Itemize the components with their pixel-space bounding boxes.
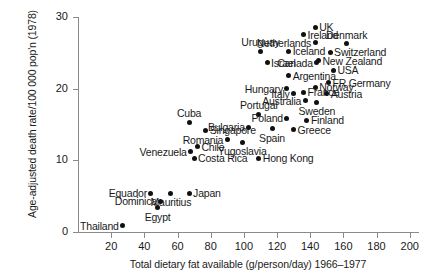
x-tick-mark (410, 233, 411, 238)
y-axis-line (78, 17, 79, 233)
x-tick-label: 20 (96, 240, 126, 252)
data-point (195, 144, 200, 149)
data-point (192, 156, 197, 161)
x-tick-mark (111, 233, 112, 238)
x-tick-label: 160 (328, 240, 358, 252)
data-point-label: Iceland (293, 46, 325, 57)
data-point-label: Portugal (240, 100, 278, 111)
data-point-label: Bulgaria (208, 122, 245, 133)
x-tick-label: 100 (229, 240, 259, 252)
data-point (301, 90, 306, 95)
data-point-label: Austria (331, 88, 362, 99)
x-tick-label: 40 (129, 240, 159, 252)
x-tick-mark (277, 233, 278, 238)
data-point-label: Denmark (326, 29, 367, 40)
y-tick-label: 10 (42, 153, 68, 165)
data-point (187, 120, 192, 125)
y-tick-mark (73, 17, 78, 18)
data-point-label: Israel (271, 57, 295, 68)
x-tick-label: 140 (295, 240, 325, 252)
data-point-label: Thailand (80, 220, 119, 231)
data-point-label: Venezuela (140, 146, 187, 157)
y-tick-mark (73, 232, 78, 233)
data-point-label: USA (337, 65, 358, 76)
x-tick-label: 120 (262, 240, 292, 252)
data-point (258, 49, 263, 54)
x-tick-mark (144, 233, 145, 238)
scatter-plot-figure: Age-adjusted death rate/100 000 pop'n (1… (0, 0, 440, 279)
x-tick-label: 60 (163, 240, 193, 252)
x-tick-label: 80 (196, 240, 226, 252)
y-axis-title: Age-adjusted death rate/100 000 pop'n (1… (26, 0, 38, 234)
data-point (304, 118, 309, 123)
data-point-label: Costa Rica (198, 153, 247, 164)
data-point (225, 137, 230, 142)
data-point (286, 73, 291, 78)
x-axis-title: Total dietary fat available (g/person/da… (78, 258, 418, 270)
x-tick-mark (178, 233, 179, 238)
data-point (120, 223, 125, 228)
data-point-label: Japan (193, 188, 221, 199)
y-tick-mark (73, 89, 78, 90)
x-axis-line (78, 232, 419, 233)
data-point (314, 60, 319, 65)
x-tick-mark (244, 233, 245, 238)
y-tick-label: 30 (42, 10, 68, 22)
data-point-label: Egypt (145, 211, 171, 222)
data-point (188, 149, 193, 154)
x-tick-mark (310, 233, 311, 238)
data-point (284, 116, 289, 121)
y-tick-label: 20 (42, 82, 68, 94)
data-point-label: Greece (298, 124, 331, 135)
x-tick-mark (211, 233, 212, 238)
x-tick-mark (377, 233, 378, 238)
data-point (265, 60, 270, 65)
x-tick-label: 180 (362, 240, 392, 252)
data-point-label: Spain (259, 132, 285, 143)
y-tick-label: 0 (42, 225, 68, 237)
x-tick-mark (343, 233, 344, 238)
data-point-label: Dominica (115, 196, 157, 207)
x-tick-label: 200 (395, 240, 425, 252)
data-point-label: Cuba (177, 108, 201, 119)
data-point-label: Hong Kong (263, 153, 314, 164)
data-point (286, 49, 291, 54)
data-point-label: Poland (251, 113, 283, 124)
data-point (303, 98, 308, 103)
data-point (291, 127, 296, 132)
y-tick-mark (73, 160, 78, 161)
data-point-label: Uruguay (241, 37, 279, 48)
data-point (256, 156, 261, 161)
